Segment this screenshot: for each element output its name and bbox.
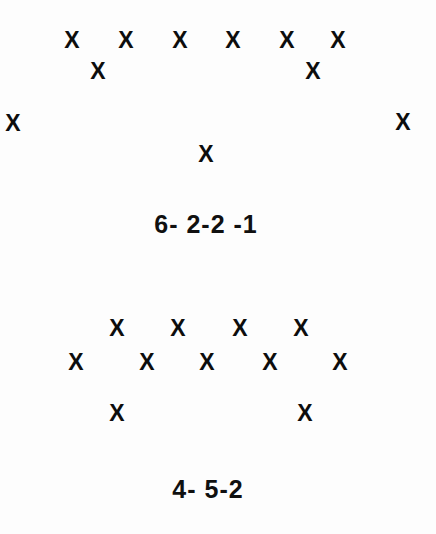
player-marker: X xyxy=(199,351,214,374)
player-marker: X xyxy=(297,402,312,425)
player-marker: X xyxy=(332,351,347,374)
player-marker: X xyxy=(109,402,124,425)
player-marker: X xyxy=(68,351,83,374)
player-marker: X xyxy=(170,317,185,340)
player-marker: X xyxy=(139,351,154,374)
formation-diagram: X X X X X X X X X X X 6- 2-2 -1 X X X X … xyxy=(0,0,436,534)
player-marker: X xyxy=(262,351,277,374)
player-marker: X xyxy=(293,317,308,340)
player-marker: X xyxy=(232,317,247,340)
formation-bottom-group: X X X X X X X X X X X 4- 5-2 xyxy=(0,0,436,534)
player-marker: X xyxy=(109,317,124,340)
formation-label-bottom: 4- 5-2 xyxy=(172,477,243,502)
